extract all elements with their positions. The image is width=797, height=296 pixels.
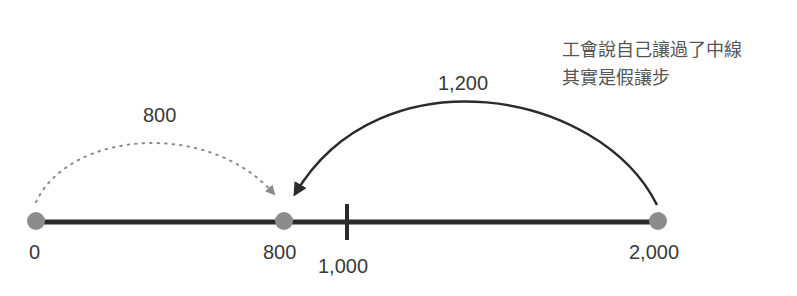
point-label-800: 800 <box>263 241 296 264</box>
solid-arc-arrow <box>295 101 657 205</box>
dotted-arc-arrow <box>36 143 274 202</box>
point-label-2000: 2,000 <box>629 241 679 264</box>
annotation-line-1: 工會說自己讓過了中線 <box>562 36 742 64</box>
dotted-arc-label: 800 <box>143 104 176 127</box>
point-800-dot <box>275 212 293 230</box>
point-label-0: 0 <box>29 241 40 264</box>
midpoint-label: 1,000 <box>318 255 368 278</box>
annotation-text: 工會說自己讓過了中線 其實是假讓步 <box>562 36 742 92</box>
annotation-line-2: 其實是假讓步 <box>562 64 742 92</box>
point-2000-dot <box>649 212 667 230</box>
point-0-dot <box>27 212 45 230</box>
solid-arc-label: 1,200 <box>438 72 488 95</box>
